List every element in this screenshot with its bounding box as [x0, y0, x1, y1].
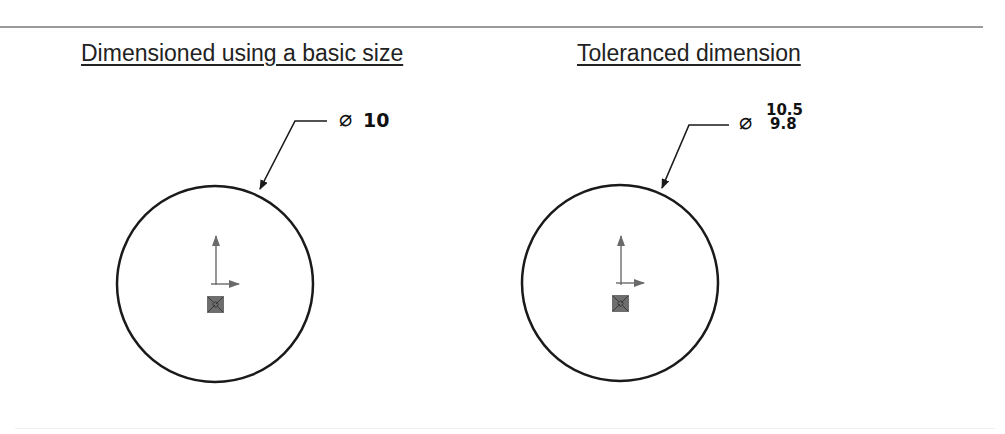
tolerance-lower-limit: 9.8	[770, 117, 797, 132]
drawing-canvas	[0, 0, 1005, 434]
leader-line-toleranced	[662, 125, 729, 188]
leader-line-basic	[260, 121, 327, 189]
bottom-divider-rule	[15, 428, 995, 429]
origin-point-icon	[612, 295, 629, 312]
origin-axes-icon	[211, 236, 239, 285]
dimension-value-basic: 10	[363, 109, 389, 131]
origin-axes-icon	[616, 236, 644, 285]
diameter-symbol-icon: ⌀	[339, 106, 352, 131]
origin-point-icon	[207, 296, 224, 313]
diameter-symbol-icon: ⌀	[739, 109, 752, 134]
